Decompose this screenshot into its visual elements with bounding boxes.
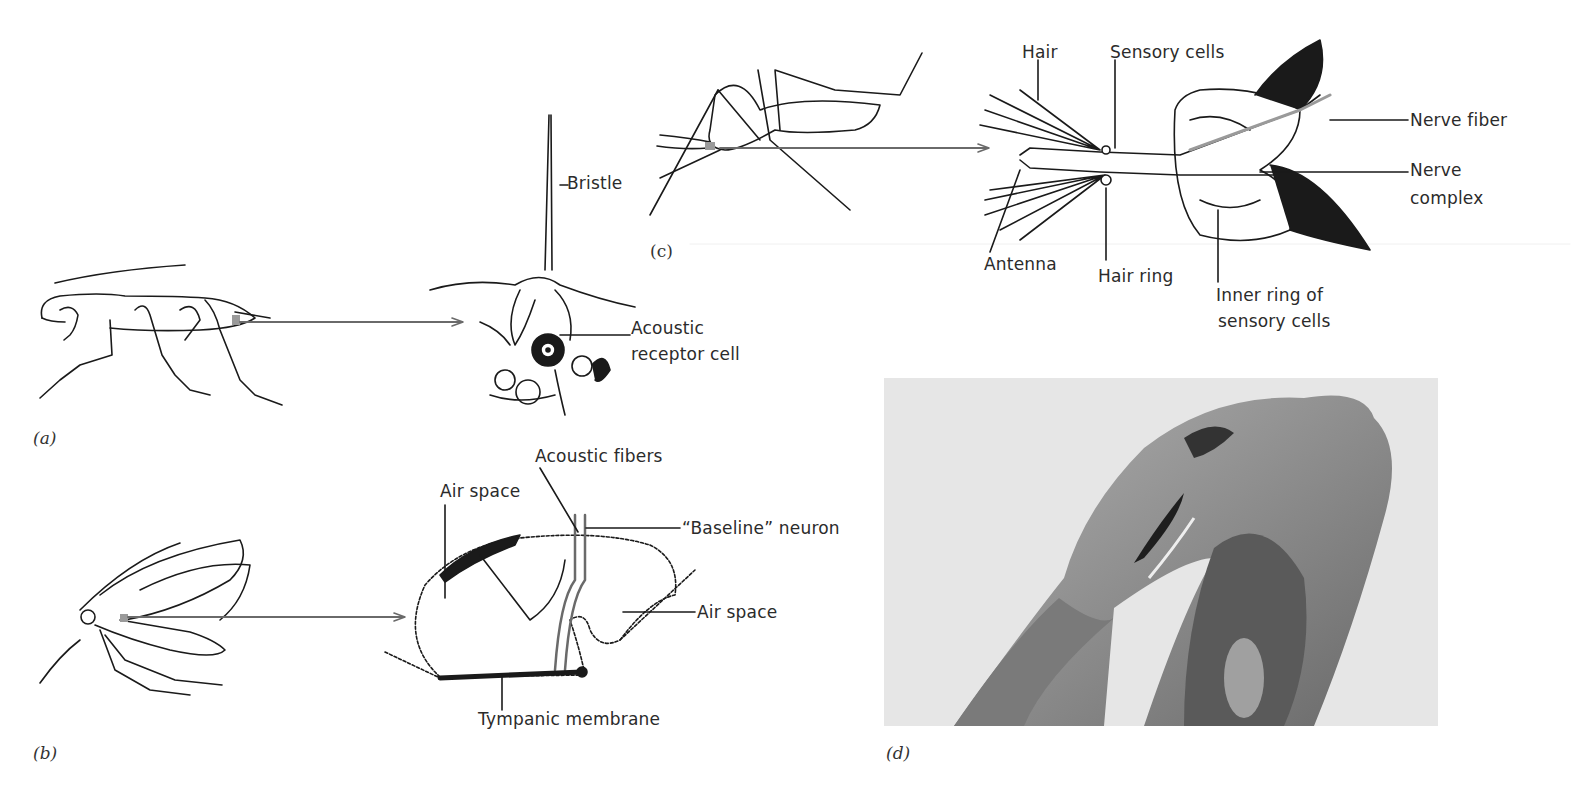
label-acoustic-receptor-line2: receptor cell [631,344,740,365]
label-nerve-complex-line1: Nerve [1410,160,1462,181]
label-sensory-cells: Sensory cells [1110,42,1224,63]
bristle-receptor-drawing [430,115,635,415]
ear-section-photo [884,378,1438,726]
label-baseline-neuron: “Baseline” neuron [682,518,840,539]
label-bristle: Bristle [567,173,622,194]
label-acoustic-fibers: Acoustic fibers [535,446,663,467]
caption-c: (c) [650,241,673,261]
tympanal-organ-drawing [385,515,695,678]
caption-b: (b) [33,743,57,763]
label-inner-ring-line1: Inner ring of [1216,285,1323,306]
label-air-space-left: Air space [440,481,520,502]
label-nerve-fiber: Nerve fiber [1410,110,1507,131]
label-inner-ring-line2: sensory cells [1218,311,1331,332]
label-acoustic-receptor-line1: Acoustic [631,318,704,339]
label-antenna: Antenna [984,254,1057,275]
label-nerve-complex-line2: complex [1410,188,1483,209]
caption-a: (a) [33,428,56,448]
label-tympanic-membrane: Tympanic membrane [478,709,660,730]
cricket-drawing [40,265,282,405]
label-hair-ring: Hair ring [1098,266,1173,287]
label-air-space-right: Air space [697,602,777,623]
caption-d: (d) [886,743,910,763]
label-hair: Hair [1022,42,1058,63]
mosquito-drawing [650,53,922,215]
